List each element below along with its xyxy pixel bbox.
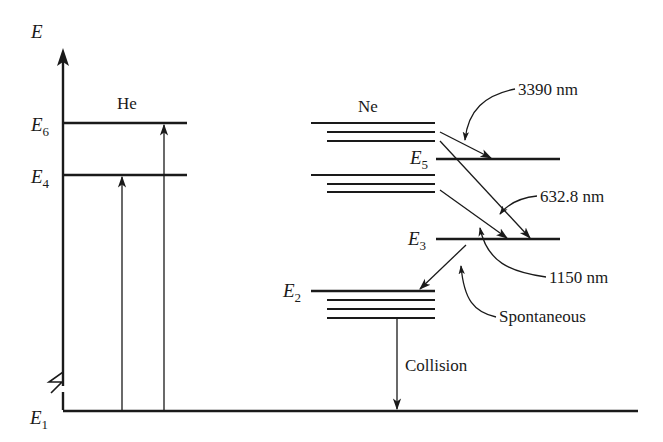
- label-collision: Collision: [405, 356, 468, 375]
- level-e2-label: E2: [282, 280, 301, 305]
- neon-label: Ne: [358, 97, 378, 116]
- axis-break-icon: [49, 372, 63, 393]
- level-e3-label: E3: [407, 228, 426, 253]
- label-spontaneous: Spontaneous: [499, 307, 586, 326]
- level-e4-label: E4: [30, 166, 50, 191]
- level-e5-label: E5: [409, 147, 428, 172]
- label-632nm: 632.8 nm: [540, 187, 604, 206]
- level-e6-label: E6: [30, 114, 50, 139]
- level-e1: E1: [29, 407, 638, 432]
- label-3390nm: 3390 nm: [518, 80, 578, 99]
- label-1150nm: 1150 nm: [549, 268, 608, 287]
- energy-axis: E: [30, 21, 69, 410]
- helium-label: He: [117, 94, 137, 113]
- he-ne-energy-level-diagram: E E1 He E6 E4 Ne E5 E3 E2: [0, 0, 663, 442]
- axis-label: E: [30, 21, 43, 42]
- helium-levels: He E6 E4: [30, 94, 187, 411]
- spontaneous-arrow: [420, 245, 466, 289]
- level-e1-label: E1: [29, 407, 48, 432]
- transition-1150nm-arrow: [440, 190, 507, 238]
- callouts: 3390 nm 632.8 nm 1150 nm Spontaneous Col…: [405, 80, 608, 375]
